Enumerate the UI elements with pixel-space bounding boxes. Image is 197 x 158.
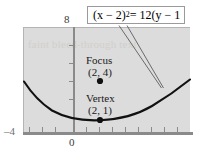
y-tick — [69, 45, 74, 46]
x-tick — [86, 127, 87, 132]
x-tick — [29, 127, 30, 132]
x-axis-min-label: –4 — [4, 125, 15, 137]
x-tick — [55, 127, 56, 132]
plot-panel: faint bleed-through text — [23, 27, 190, 133]
x-tick — [42, 127, 43, 132]
vertex-coordinates: (2, 1) — [88, 104, 112, 116]
y-tick — [69, 63, 74, 64]
parabola-figure: faint bleed-through text 8 0 –4 Focus (2… — [0, 0, 197, 158]
x-tick — [99, 127, 100, 132]
x-tick — [151, 127, 152, 132]
focus-coordinates: (2, 4) — [88, 66, 112, 78]
x-tick — [164, 127, 165, 132]
y-tick — [69, 117, 74, 118]
x-tick — [125, 127, 126, 132]
focus-label: Focus — [86, 54, 112, 66]
x-tick — [112, 127, 113, 132]
y-tick — [69, 81, 74, 82]
equation-callout: (x − 2)2 = 12(y − 1 — [87, 6, 185, 24]
vertex-label: Vertex — [86, 92, 115, 104]
equation-suffix: = 12(y − 1 — [130, 8, 181, 23]
x-tick — [177, 127, 178, 132]
y-axis-max-label: 8 — [64, 13, 70, 25]
y-tick — [69, 99, 74, 100]
x-axis-origin-label: 0 — [69, 136, 75, 148]
background-watermark-text: faint bleed-through text — [28, 38, 178, 51]
equation-prefix: (x − 2) — [93, 8, 126, 23]
x-axis — [23, 132, 193, 135]
x-tick — [138, 127, 139, 132]
